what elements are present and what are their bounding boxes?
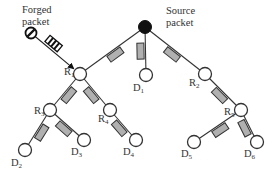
packet-R4-D4 (111, 120, 127, 137)
label-d2: D2 (11, 157, 23, 170)
source-label-line1: Source (166, 5, 195, 16)
packet-R1-R3 (61, 87, 77, 104)
source-label-line2: packet (166, 17, 193, 28)
destination-node-d2 (19, 144, 32, 157)
edge-S-D1 (145, 27, 146, 75)
destination-node-d3 (78, 134, 91, 147)
forged-packet-attack (26, 28, 74, 69)
edge-S-R1 (80, 27, 145, 74)
label-r3: R3 (34, 105, 45, 118)
destination-node-d1 (140, 69, 153, 82)
label-d1: D1 (133, 82, 145, 95)
packet-S-D1 (137, 43, 144, 59)
source-node (139, 21, 152, 34)
label-r2: R2 (189, 77, 200, 90)
node-labels: R1D1R2R3R4R5D2D3D4D5D6 (11, 66, 256, 170)
packet-S-R2 (163, 47, 180, 62)
router-node-r3 (44, 104, 57, 117)
label-d3: D3 (71, 146, 83, 159)
router-node-r5 (235, 104, 248, 117)
packet-S-R1 (107, 47, 124, 62)
destination-node-d6 (251, 136, 264, 149)
packet-R3-D3 (55, 121, 72, 137)
packet-R5-D5 (212, 123, 229, 138)
edge-S-R2 (145, 27, 205, 74)
forged-label-line2: packet (22, 16, 49, 27)
destination-node-d4 (130, 134, 143, 147)
packet-R5-D6 (238, 120, 251, 137)
label-d5: D5 (181, 148, 193, 161)
router-node-r1 (74, 68, 87, 81)
router-node-r4 (104, 104, 117, 117)
router-node-r2 (199, 68, 212, 81)
attacker-icon (26, 28, 37, 39)
edge-R2-R5 (205, 74, 241, 110)
destination-node-d5 (188, 136, 201, 149)
label-d4: D4 (123, 146, 135, 159)
packet-R3-D2 (35, 124, 49, 141)
label-r5: R5 (224, 106, 235, 119)
forged-label-line1: Forged (22, 4, 52, 15)
multicast-tree-diagram: R1D1R2R3R4R5D2D3D4D5D6 Forged packet Sou… (0, 0, 277, 173)
packet-R1-R4 (83, 87, 99, 104)
forged-packet-icon (45, 35, 62, 51)
packet-R2-R5 (211, 87, 227, 103)
label-d6: D6 (244, 148, 256, 161)
